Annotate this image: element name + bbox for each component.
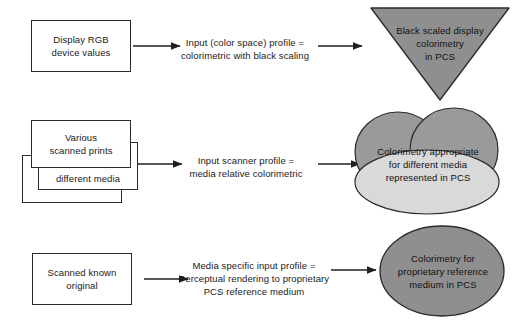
caption-scanner-profile: Input scanner profile = media relative c…	[176, 154, 316, 180]
source-box-different-media-label: different media	[52, 172, 124, 185]
source-box-scanned-prints-label: Various scanned prints	[45, 131, 116, 157]
cloud-shape	[355, 108, 499, 214]
source-box-scanned-original[interactable]: Scanned known original	[32, 253, 132, 305]
caption-display-profile: Input (color space) profile = colorimetr…	[172, 36, 318, 62]
caption-media-specific-profile: Media specific input profile = Perceptua…	[176, 259, 332, 298]
source-box-display[interactable]: Display RGB device values	[31, 20, 131, 72]
diagram-canvas: Display RGB device values Input (color s…	[0, 0, 524, 331]
source-box-scanned-prints[interactable]: Various scanned prints	[31, 120, 131, 168]
triangle-down-shape	[371, 8, 509, 100]
ellipse-shape	[380, 226, 504, 316]
source-box-scanned-original-label: Scanned known original	[44, 266, 121, 292]
source-box-display-label: Display RGB device values	[48, 33, 115, 59]
